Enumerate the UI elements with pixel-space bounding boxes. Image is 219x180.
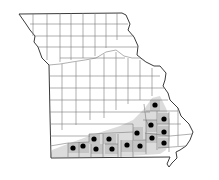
record-dot xyxy=(80,143,85,148)
record-dot xyxy=(148,122,153,127)
record-dot xyxy=(161,116,166,121)
missouri-county-map xyxy=(0,0,219,180)
record-dot xyxy=(134,130,139,135)
record-dot xyxy=(161,140,166,145)
record-dot xyxy=(70,145,75,150)
record-dot xyxy=(137,143,142,148)
record-dot xyxy=(161,129,166,134)
record-dot xyxy=(152,102,157,107)
record-dot xyxy=(124,142,129,147)
record-dot xyxy=(109,146,114,151)
record-dot xyxy=(91,136,96,141)
record-dot xyxy=(149,135,154,140)
record-dot xyxy=(93,146,98,151)
record-dot xyxy=(106,136,111,141)
